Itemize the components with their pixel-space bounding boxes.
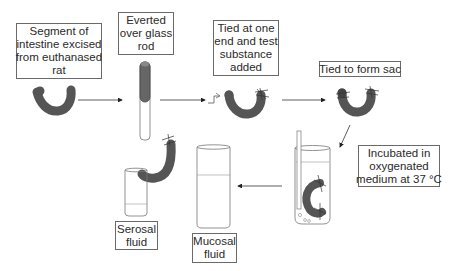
intestine-segment-icon	[36, 87, 72, 112]
step2-line-1: Everted	[126, 14, 166, 27]
mucosal-line-2: fluid	[204, 248, 225, 261]
step2-line-3: rod	[138, 40, 155, 53]
step1-line-2: intestine excised	[16, 38, 101, 51]
tied-intestine-icon	[225, 88, 270, 114]
step3-line-1: Tied at one	[217, 22, 274, 35]
step4-label: Tied to form sac	[319, 61, 401, 77]
step5-line-3: medium at 37 °C	[356, 173, 442, 186]
serosal-line-2: fluid	[126, 236, 147, 249]
step1-line-1: Segment of	[30, 25, 89, 38]
step2-line-2: over glass	[120, 27, 172, 40]
arrow-4	[340, 125, 350, 147]
step3-label: Tied at one end and test substance added	[213, 20, 279, 76]
step5-label: Incubated in oxygenated medium at 37 °C	[358, 145, 440, 187]
step1-line-3: from euthanased	[16, 51, 102, 64]
mucosal-fluid-label: Mucosal fluid	[192, 233, 237, 263]
mucosal-beaker-icon	[197, 145, 230, 228]
step1-label: Segment of intestine excised from euthan…	[16, 23, 102, 79]
mucosal-line-1: Mucosal	[193, 235, 236, 248]
diagram-canvas: Segment of intestine excised from euthan…	[0, 0, 455, 271]
step5-line-2: oxygenated	[369, 160, 428, 173]
step3-line-4: added	[230, 61, 262, 74]
step3-line-2: end and test	[214, 35, 277, 48]
intestinal-sac-icon	[336, 86, 379, 112]
step3-line-3: substance	[220, 48, 272, 61]
step4-line-1: Tied to form sac	[319, 63, 401, 76]
serosal-line-1: Serosal	[117, 223, 156, 236]
step1-line-4: rat	[52, 64, 65, 77]
serosal-fluid-label: Serosal fluid	[115, 221, 158, 250]
step2-label: Everted over glass rod	[118, 12, 174, 55]
step5-line-1: Incubated in	[368, 147, 431, 160]
incubation-beaker-icon	[295, 131, 330, 224]
glass-rod-icon	[140, 62, 150, 141]
